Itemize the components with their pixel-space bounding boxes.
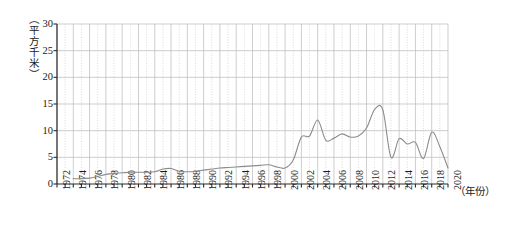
plot-area [0,0,517,235]
chart-figure: （平方千米） 051015202530 19721974197619781980… [0,0,517,235]
